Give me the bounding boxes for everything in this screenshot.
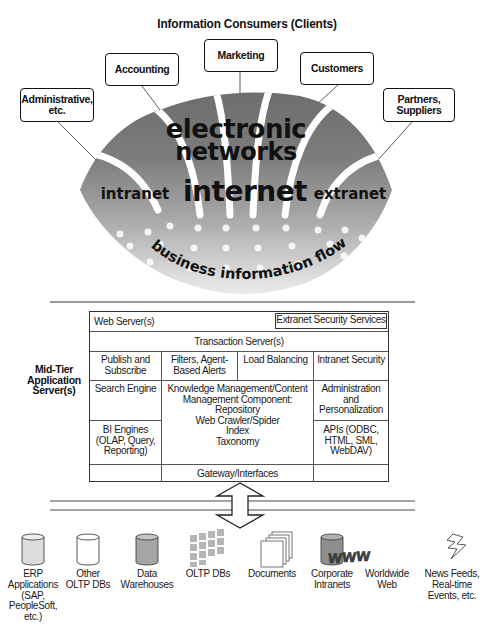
intranet-security-cell: Intranet Security [314, 352, 388, 366]
gateway-interfaces-cell: Gateway/Interfaces [162, 466, 313, 480]
administration-personalization-cell: AdministrationandPersonalization [314, 381, 388, 416]
source-label-news-feeds: News Feeds,Real-timeEvents, etc. [412, 569, 492, 601]
client-box-customers: Customers [300, 52, 374, 85]
search-engine-cell: Search Engine [90, 381, 161, 395]
bidirectional-arrow-icon [217, 483, 263, 528]
networks-label: networks [175, 138, 297, 166]
client-box-administrative: Administrative,etc. [20, 88, 94, 122]
client-box-partners: Partners,Suppliers [383, 88, 455, 122]
mid-tier-server-grid: Web Server(s) Extranet Security Services… [89, 311, 389, 482]
transaction-server-cell: Transaction Server(s) [90, 334, 388, 348]
extranet-security-cell: Extranet Security Services [275, 313, 387, 329]
bi-engines-cell: BI Engines(OLAP, Query,Reporting) [90, 422, 161, 457]
client-box-accounting: Accounting [105, 53, 179, 86]
publish-subscribe-cell: Publish andSubscribe [90, 352, 161, 376]
extranet-label: extranet [314, 185, 387, 203]
intranet-label: intranet [101, 185, 170, 203]
mid-tier-label: Mid-Tier Application Server(s) [18, 364, 90, 396]
client-box-marketing: Marketing [204, 39, 278, 72]
filters-alerts-cell: Filters, Agent-Based Alerts [162, 352, 237, 376]
load-balancing-cell: Load Balancing [238, 352, 313, 366]
knowledge-management-cell: Knowledge Management/Content Management … [162, 381, 313, 448]
internet-label: internet [183, 175, 307, 208]
web-server-cell: Web Server(s) [94, 314, 214, 328]
apis-cell: APIs (ODBC,HTML, SML,WebDAV) [314, 422, 388, 457]
